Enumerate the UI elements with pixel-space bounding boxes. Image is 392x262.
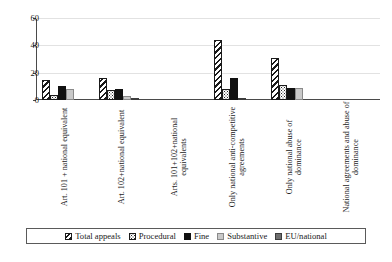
bar-eu-national (238, 98, 246, 100)
bar-procedural (222, 89, 230, 100)
bar-fine (287, 88, 295, 100)
bar-total-appeals (271, 58, 279, 100)
bar-fine (230, 78, 238, 100)
bar-group (36, 18, 93, 100)
x-axis-label-cell: Art. 102+national equivalent (93, 101, 150, 213)
bar-total-appeals (214, 40, 222, 100)
legend-swatch-eu-national-icon (275, 233, 282, 240)
bar-fine (115, 89, 123, 100)
x-axis-label-cell: Art. 101 + national equivalent (36, 101, 93, 213)
legend-label: Total appeals (75, 231, 120, 241)
bar-substantive (295, 88, 303, 100)
legend-label: EU/national (285, 231, 327, 241)
bar-procedural (50, 95, 58, 100)
bar-total-appeals (42, 80, 50, 101)
bar-group (265, 18, 322, 100)
x-axis-label: Only national anti-competitive agreement… (227, 101, 245, 213)
legend-swatch-substantive-icon (217, 233, 224, 240)
x-axis-label: Art. 102+national equivalent (117, 101, 126, 213)
x-axis-label: Art. 101 + national equivalent (60, 101, 69, 213)
legend-swatch-procedural-icon (129, 233, 136, 240)
legend-item-total-appeals: Total appeals (65, 231, 120, 241)
bar-eu-national (131, 98, 139, 100)
x-axis-label-cell: National agreements and abuse of dominan… (323, 101, 380, 213)
bar-group (151, 18, 208, 100)
legend-label: Procedural (139, 231, 176, 241)
bar-procedural (279, 85, 287, 100)
bar-group (208, 18, 265, 100)
x-axis-label-cell: Only national abuse of dominance (265, 101, 322, 213)
x-axis-labels: Art. 101 + national equivalent Art. 102+… (36, 101, 380, 213)
bar-group (323, 18, 380, 100)
bar-substantive (123, 96, 131, 100)
x-axis-label: Only national abuse of dominance (285, 101, 303, 213)
bar-substantive (66, 89, 74, 100)
legend-label: Substantive (227, 231, 267, 241)
x-axis-label-cell: Only national anti-competitive agreement… (208, 101, 265, 213)
legend-swatch-total-appeals-icon (65, 233, 72, 240)
bar-chart-figure: 60 40 20 0 (0, 0, 392, 262)
x-axis-label: National agreements and abuse of dominan… (342, 101, 360, 213)
plot-area: 60 40 20 0 (36, 18, 380, 100)
legend-item-procedural: Procedural (129, 231, 176, 241)
bar-fine (58, 86, 66, 100)
legend-item-substantive: Substantive (217, 231, 267, 241)
x-axis-label: Arts. 101+102+national equivalents (170, 101, 188, 213)
bar-total-appeals (99, 78, 107, 100)
legend-swatch-fine-icon (184, 233, 191, 240)
bars-layer (36, 18, 380, 100)
legend-item-eu-national: EU/national (275, 231, 327, 241)
legend-item-fine: Fine (184, 231, 209, 241)
bar-group (93, 18, 150, 100)
bar-procedural (107, 90, 115, 100)
legend-label: Fine (194, 231, 209, 241)
chart-legend: Total appeals Procedural Fine Substantiv… (26, 228, 366, 244)
x-axis-label-cell: Arts. 101+102+national equivalents (151, 101, 208, 213)
